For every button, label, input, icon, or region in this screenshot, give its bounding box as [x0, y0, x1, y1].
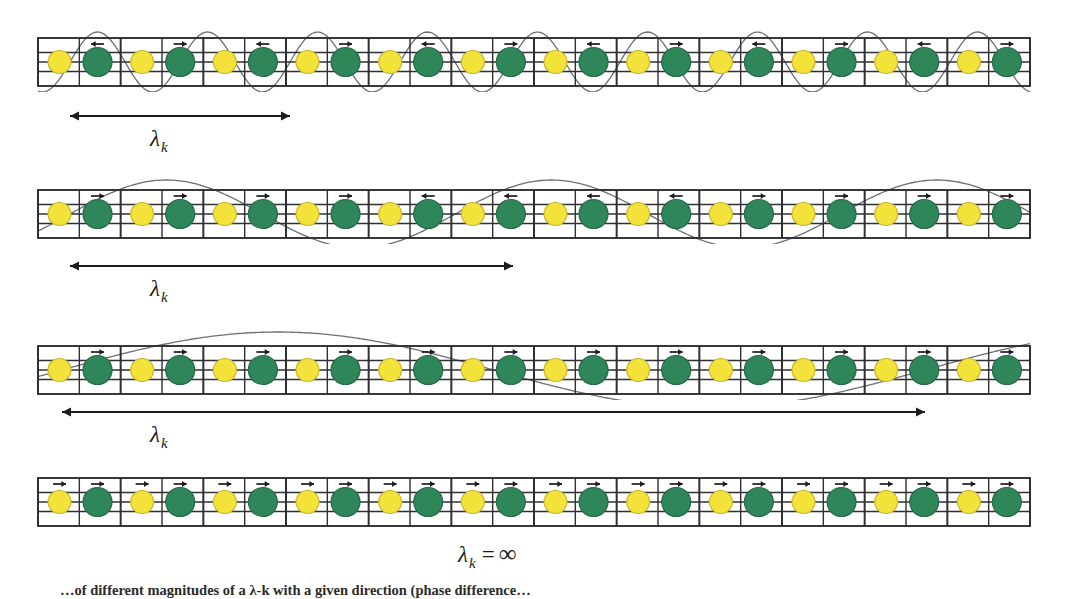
atom-heavy: [992, 356, 1021, 385]
atom-light: [957, 491, 980, 514]
atom-heavy: [910, 48, 939, 77]
atom-heavy: [662, 488, 691, 517]
atom-light: [875, 491, 898, 514]
atom-light: [379, 203, 402, 226]
atom-heavy: [166, 356, 195, 385]
atom-light: [213, 359, 236, 382]
atom-light: [544, 51, 567, 74]
atom-heavy: [414, 488, 443, 517]
atom-heavy: [579, 48, 608, 77]
atom-light: [379, 51, 402, 74]
atom-heavy: [496, 488, 525, 517]
atom-light: [627, 51, 650, 74]
atom-heavy: [496, 48, 525, 77]
atom-heavy: [744, 488, 773, 517]
atom-heavy: [579, 356, 608, 385]
atom-heavy: [414, 48, 443, 77]
atom-light: [627, 203, 650, 226]
atom-light: [709, 491, 732, 514]
atom-heavy: [827, 48, 856, 77]
atom-light: [792, 203, 815, 226]
atom-heavy: [331, 48, 360, 77]
wavelength-measure-arrow: [62, 407, 925, 416]
atom-heavy: [662, 356, 691, 385]
atom-light: [379, 491, 402, 514]
lambda-value: ∞: [499, 540, 517, 567]
atom-light: [213, 491, 236, 514]
atom-light: [461, 491, 484, 514]
measure-layer-2: [0, 254, 1065, 278]
atom-heavy: [496, 200, 525, 229]
atom-light: [461, 359, 484, 382]
atom-light: [296, 359, 319, 382]
atom-light: [792, 491, 815, 514]
atom-heavy: [248, 200, 277, 229]
atom-heavy: [331, 200, 360, 229]
atom-heavy: [248, 356, 277, 385]
atom-light: [957, 51, 980, 74]
atom-light: [296, 203, 319, 226]
atom-heavy: [579, 488, 608, 517]
atom-heavy: [83, 488, 112, 517]
atom-light: [709, 203, 732, 226]
lattice-1: [0, 0, 1065, 92]
atom-heavy: [827, 200, 856, 229]
atom-light: [875, 51, 898, 74]
atom-heavy: [744, 200, 773, 229]
atom-heavy: [166, 200, 195, 229]
atom-light: [213, 51, 236, 74]
atom-light: [379, 359, 402, 382]
atom-heavy: [83, 48, 112, 77]
wavelength-measure-arrow: [70, 261, 513, 270]
atom-heavy: [579, 200, 608, 229]
wavelength-measure-arrow: [70, 111, 290, 120]
atom-heavy: [248, 488, 277, 517]
atom-light: [296, 51, 319, 74]
atom-light: [544, 359, 567, 382]
atom-heavy: [166, 48, 195, 77]
atom-light: [792, 51, 815, 74]
atom-heavy: [83, 356, 112, 385]
atom-heavy: [331, 488, 360, 517]
atom-heavy: [248, 48, 277, 77]
figure-caption: …of different magnitudes of a λ-k with a…: [60, 582, 1060, 599]
atom-heavy: [744, 48, 773, 77]
atom-heavy: [992, 488, 1021, 517]
atom-heavy: [910, 200, 939, 229]
atom-heavy: [992, 48, 1021, 77]
atom-heavy: [744, 356, 773, 385]
atom-light: [875, 203, 898, 226]
measure-layer-3: [0, 400, 1065, 424]
atom-light: [461, 51, 484, 74]
atom-light: [131, 359, 154, 382]
atom-light: [957, 359, 980, 382]
atom-light: [544, 491, 567, 514]
atom-light: [48, 359, 71, 382]
atom-light: [213, 203, 236, 226]
atom-light: [875, 359, 898, 382]
atom-light: [131, 203, 154, 226]
atom-light: [131, 491, 154, 514]
measure-layer-1: [0, 104, 1065, 128]
atom-heavy: [992, 200, 1021, 229]
atom-light: [792, 359, 815, 382]
atom-heavy: [166, 488, 195, 517]
wavelength-label-4: λk=∞: [458, 540, 516, 572]
atom-heavy: [414, 200, 443, 229]
atom-light: [296, 491, 319, 514]
atom-light: [48, 491, 71, 514]
atom-light: [131, 51, 154, 74]
atom-light: [627, 491, 650, 514]
atom-heavy: [827, 488, 856, 517]
atom-heavy: [496, 356, 525, 385]
atom-heavy: [83, 200, 112, 229]
atom-light: [48, 203, 71, 226]
lattice-3: [0, 300, 1065, 400]
lambda-symbol: λ: [150, 276, 160, 301]
atom-heavy: [662, 200, 691, 229]
atom-heavy: [414, 356, 443, 385]
atom-light: [48, 51, 71, 74]
atom-light: [957, 203, 980, 226]
atom-light: [461, 203, 484, 226]
